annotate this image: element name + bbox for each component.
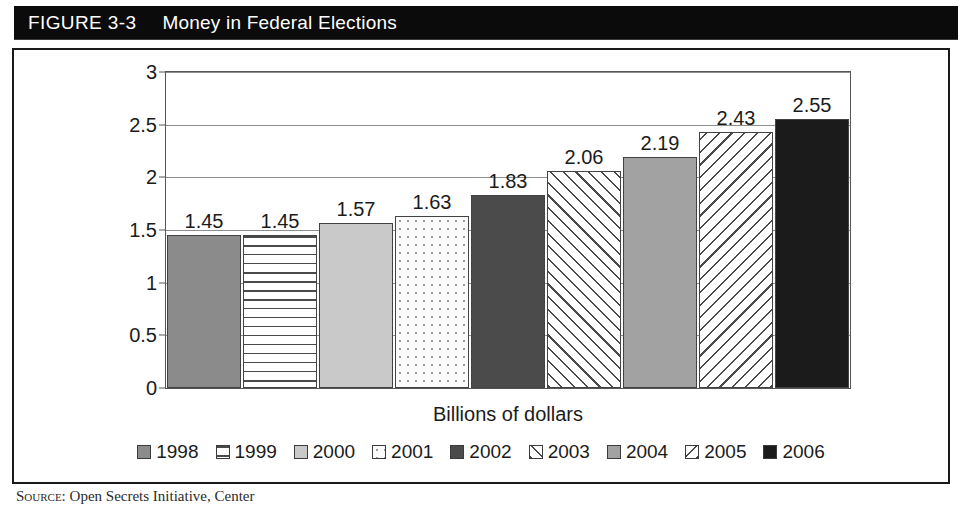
bar-value-label: 2.06 <box>565 146 604 169</box>
legend-label: 2001 <box>391 442 433 461</box>
source-note: Source: Open Secrets Initiative, Center <box>16 488 254 505</box>
y-tick-label: 0 <box>146 377 157 400</box>
bar-1998[interactable]: 1.45 <box>167 235 242 388</box>
legend-label: 2003 <box>548 442 590 461</box>
legend-swatch-icon <box>607 445 621 459</box>
bar-value-label: 2.43 <box>717 107 756 130</box>
y-tick-label: 2 <box>146 166 157 189</box>
legend-label: 2002 <box>469 442 511 461</box>
bar-2006[interactable]: 2.55 <box>775 119 850 388</box>
y-tick-label: 2.5 <box>129 113 157 136</box>
legend-item-2003[interactable]: 2003 <box>529 442 590 461</box>
legend-label: 1999 <box>235 442 277 461</box>
bar-value-label: 1.45 <box>185 210 224 233</box>
legend-item-2000[interactable]: 2000 <box>294 442 355 461</box>
legend-swatch-icon <box>685 445 699 459</box>
plot-area: 00.511.522.53 1.451.451.571.631.832.062.… <box>165 71 851 389</box>
legend-item-1999[interactable]: 1999 <box>216 442 277 461</box>
bar-2001[interactable]: 1.63 <box>395 216 470 388</box>
bar-value-label: 1.83 <box>489 170 528 193</box>
bar-value-label: 1.63 <box>413 191 452 214</box>
legend-item-1998[interactable]: 1998 <box>137 442 198 461</box>
y-tick-mark <box>159 335 166 336</box>
y-tick-mark <box>159 230 166 231</box>
legend-swatch-icon <box>763 445 777 459</box>
figure-number: FIGURE 3-3 <box>28 12 137 34</box>
bar-1999[interactable]: 1.45 <box>243 235 318 388</box>
legend-label: 2005 <box>704 442 746 461</box>
y-tick-label: 1.5 <box>129 219 157 242</box>
bar-value-label: 2.55 <box>793 94 832 117</box>
legend-swatch-icon <box>137 445 151 459</box>
y-tick-mark <box>159 72 166 73</box>
figure-title: Money in Federal Elections <box>163 12 397 34</box>
legend-item-2001[interactable]: 2001 <box>372 442 433 461</box>
legend-label: 2006 <box>782 442 824 461</box>
y-tick-mark <box>159 177 166 178</box>
y-tick-mark <box>159 124 166 125</box>
bar-value-label: 2.19 <box>641 132 680 155</box>
legend-label: 1998 <box>156 442 198 461</box>
legend-swatch-icon <box>372 445 386 459</box>
chart-frame: 00.511.522.53 1.451.451.571.631.832.062.… <box>12 48 950 484</box>
legend-item-2004[interactable]: 2004 <box>607 442 668 461</box>
bar-2003[interactable]: 2.06 <box>547 171 622 388</box>
bar-value-label: 1.45 <box>261 210 300 233</box>
legend-item-2006[interactable]: 2006 <box>763 442 824 461</box>
legend-swatch-icon <box>294 445 308 459</box>
y-tick-mark <box>159 388 166 389</box>
bar-2005[interactable]: 2.43 <box>699 132 774 388</box>
legend-label: 2004 <box>626 442 668 461</box>
legend-swatch-icon <box>450 445 464 459</box>
y-tick-label: 0.5 <box>129 324 157 347</box>
source-text: Open Secrets Initiative, Center <box>70 488 255 504</box>
y-tick-label: 3 <box>146 61 157 84</box>
legend-item-2005[interactable]: 2005 <box>685 442 746 461</box>
x-axis-label: Billions of dollars <box>165 403 851 426</box>
bar-2002[interactable]: 1.83 <box>471 195 546 388</box>
bar-2000[interactable]: 1.57 <box>319 223 394 388</box>
legend-item-2002[interactable]: 2002 <box>450 442 511 461</box>
figure-title-bar: FIGURE 3-3 Money in Federal Elections <box>14 6 958 39</box>
bar-2004[interactable]: 2.19 <box>623 157 698 388</box>
source-label: Source: <box>16 488 66 504</box>
legend-swatch-icon <box>529 445 543 459</box>
y-tick-label: 1 <box>146 271 157 294</box>
chart-legend: 199819992000200120022003200420052006 <box>14 442 948 461</box>
bar-value-label: 1.57 <box>337 198 376 221</box>
bar-series: 1.451.451.571.631.832.062.192.432.55 <box>166 72 850 388</box>
y-tick-mark <box>159 282 166 283</box>
legend-label: 2000 <box>313 442 355 461</box>
legend-swatch-icon <box>216 445 230 459</box>
